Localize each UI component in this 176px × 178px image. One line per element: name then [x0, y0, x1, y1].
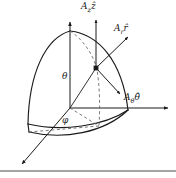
atheta-component-label: Aθθ̂: [124, 93, 140, 104]
z-hat-symbol: ẑ: [91, 1, 96, 11]
radius-line: [70, 68, 96, 108]
field-point-marker: [94, 66, 99, 71]
figure-container: Azẑ Arr̂ Aθθ̂ θ φ: [0, 0, 176, 178]
wedge-left-edge: [28, 124, 29, 132]
polar-angle-label: θ: [62, 72, 67, 81]
wedge-base-arc: [28, 110, 128, 128]
azimuth-angle-label: φ: [62, 116, 68, 125]
vector-diagram-svg: [0, 0, 176, 178]
ar-component-arrow: [96, 37, 128, 68]
theta-hat-symbol: θ̂: [134, 92, 139, 102]
ar-component-label: Arr̂: [114, 24, 128, 35]
az-component-label: Azẑ: [81, 2, 96, 13]
wedge-base-arc-lower: [29, 110, 128, 135]
r-hat-symbol: r̂: [124, 23, 128, 33]
wedge-right-arc: [70, 31, 128, 110]
dashed-meridian: [70, 31, 100, 126]
dashed-projection-radius: [70, 108, 99, 126]
